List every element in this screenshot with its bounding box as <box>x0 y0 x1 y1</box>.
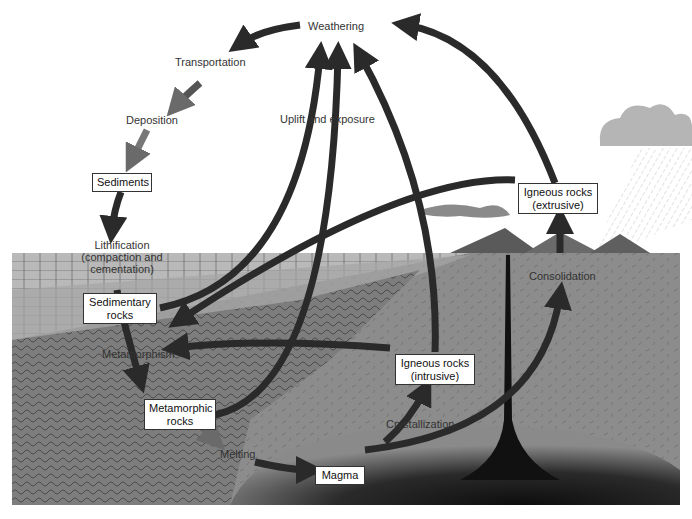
arrow-sediments-lithification <box>112 192 121 230</box>
arrow-extrusive-weathering <box>405 25 555 183</box>
label-lithification: Lithification (compaction and cementatio… <box>72 239 172 275</box>
label-melting: Melting <box>220 448 255 460</box>
label-transportation: Transportation <box>175 56 246 68</box>
box-sedimentary-rocks: Sedimentary rocks <box>83 293 157 324</box>
label-uplift-and-exposure: Uplift and exposure <box>280 113 375 125</box>
box-metamorphic-rocks: Metamorphic rocks <box>144 399 216 430</box>
label-consolidation: Consolidation <box>529 270 596 282</box>
label-crystallization: Crystallization <box>386 418 454 430</box>
cloud-icon <box>590 104 692 260</box>
box-sediments: Sediments <box>92 173 152 192</box>
box-igneous-intrusive: Igneous rocks (intrusive) <box>395 354 475 385</box>
label-deposition: Deposition <box>126 114 178 126</box>
arrow-deposition-sediments <box>132 130 147 160</box>
label-metamorphism: Metamorphism <box>102 348 175 360</box>
label-weathering: Weathering <box>308 20 364 32</box>
arrow-transportation-deposition <box>176 83 200 106</box>
box-igneous-extrusive: Igneous rocks (extrusive) <box>518 183 598 214</box>
box-magma: Magma <box>315 466 365 485</box>
arrow-weathering-transportation <box>240 25 300 44</box>
